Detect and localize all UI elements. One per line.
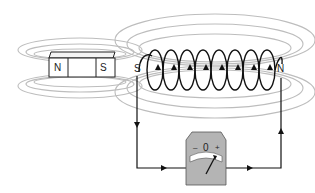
galvanometer: – 0 +	[186, 132, 226, 185]
electromagnetic-induction-diagram: N S S N – 0	[0, 0, 315, 193]
coil-field-lines	[115, 14, 315, 118]
bar-magnet: N S	[49, 52, 115, 77]
meter-zero-label: 0	[203, 142, 209, 153]
meter-plus-label: +	[215, 143, 220, 152]
magnet-north-label: N	[54, 62, 61, 73]
meter-minus-label: –	[193, 143, 198, 152]
coil-north-label: N	[277, 63, 284, 74]
magnet-south-label: S	[100, 62, 107, 73]
coil-current-arrows	[155, 64, 273, 70]
coil-south-label: S	[134, 63, 141, 74]
